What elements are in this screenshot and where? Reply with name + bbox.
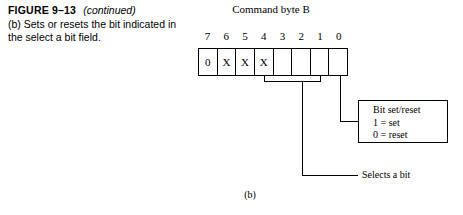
select-a-bit-leader-horizontal — [302, 175, 358, 176]
bit-number: 0 — [329, 29, 348, 43]
bracket-bar — [264, 81, 321, 82]
figure-page: FIGURE 9–13(continued) (b) Sets or reset… — [0, 0, 463, 215]
bit-set-reset-leader-horizontal — [340, 121, 359, 122]
bit-number-row: 7 6 5 4 3 2 1 0 — [198, 29, 348, 43]
callout-reset-line: 0 = reset — [373, 129, 447, 142]
figure-number: FIGURE 9–13 — [8, 4, 76, 16]
bit-cell: 0 — [199, 49, 218, 75]
select-a-bit-leader-vertical — [302, 81, 303, 175]
figure-continued-note: (continued) — [83, 4, 136, 16]
subfigure-label: (b) — [240, 189, 260, 200]
bit-set-reset-leader-vertical — [340, 76, 341, 121]
diagram-title: Command byte B — [206, 3, 336, 15]
bit-cell — [292, 49, 311, 75]
command-byte-bit-box: 0 X X X — [198, 48, 348, 76]
bit-cell — [274, 49, 293, 75]
bit-set-reset-callout: Bit set/reset 1 = set 0 = reset — [358, 100, 448, 143]
bit-number: 7 — [198, 29, 217, 43]
bit-number: 6 — [217, 29, 236, 43]
bit-cell: X — [255, 49, 274, 75]
bit-cell — [311, 49, 330, 75]
figure-caption-body: (b) Sets or resets the bit indicated in … — [8, 18, 184, 45]
callout-set-line: 1 = set — [373, 117, 447, 130]
bit-number: 2 — [292, 29, 311, 43]
bit-cell: X — [236, 49, 255, 75]
callout-title: Bit set/reset — [373, 104, 447, 117]
bit-cell — [329, 49, 347, 75]
selects-a-bit-label: Selects a bit — [362, 168, 410, 181]
bit-cell: X — [218, 49, 237, 75]
bit-number: 4 — [254, 29, 273, 43]
bit-number: 3 — [273, 29, 292, 43]
figure-caption: FIGURE 9–13(continued) (b) Sets or reset… — [8, 4, 184, 45]
bit-number: 1 — [311, 29, 330, 43]
bit-number: 5 — [236, 29, 255, 43]
